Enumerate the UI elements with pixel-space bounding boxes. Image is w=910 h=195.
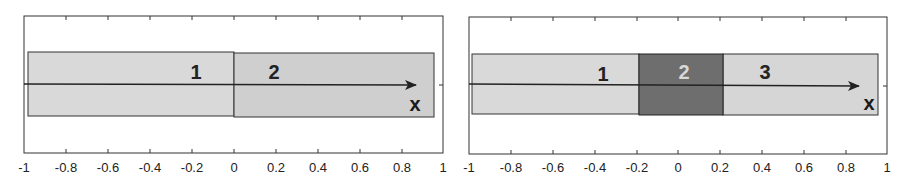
bottom-ticks [511, 150, 846, 154]
tick-label: 0 [674, 160, 681, 175]
region-2-label: 2 [268, 61, 279, 83]
region-3-label: 3 [759, 61, 770, 83]
tick-label: -0.8 [500, 160, 522, 175]
region-2-label: 2 [678, 61, 689, 83]
tick-label: 0 [230, 160, 237, 175]
x-variable-label: x [863, 92, 874, 114]
tick-label: -0.8 [55, 160, 77, 175]
region-1-label: 1 [190, 61, 201, 83]
tick-label: 0.8 [393, 160, 411, 175]
tick-labels: -1 -0.8 -0.6 -0.4 -0.2 0 0.2 0.4 0.6 0.8… [18, 160, 446, 175]
tick-label: -0.2 [626, 160, 648, 175]
tick-label: 1 [439, 160, 446, 175]
tick-label: 0.4 [753, 160, 771, 175]
tick-label: 0.6 [351, 160, 369, 175]
tick-label: 0.8 [837, 160, 855, 175]
tick-label: -1 [18, 160, 30, 175]
tick-label: -0.6 [97, 160, 119, 175]
top-ticks [511, 17, 846, 21]
tick-label: 1 [883, 160, 890, 175]
region-1-label: 1 [597, 63, 608, 85]
diagram-canvas: 1 2 x -1 -0.8 -0.6 -0.4 -0.2 0 0.2 0.4 0… [0, 0, 910, 195]
x-axis-arrow [24, 84, 416, 85]
bottom-ticks [66, 149, 402, 153]
tick-label: -0.2 [181, 160, 203, 175]
tick-label: -0.6 [542, 160, 564, 175]
left-panel: 1 2 x -1 -0.8 -0.6 -0.4 -0.2 0 0.2 0.4 0… [18, 16, 446, 175]
tick-label: 0.2 [711, 160, 729, 175]
tick-label: 0.2 [267, 160, 285, 175]
tick-label: -0.4 [139, 160, 161, 175]
right-panel: 1 2 3 x -1 -0.8 -0.6 -0.4 -0.2 0 0.2 0.4… [463, 17, 890, 175]
top-ticks [66, 16, 402, 20]
tick-label: 0.6 [795, 160, 813, 175]
x-variable-label: x [409, 93, 420, 115]
region-3-box [723, 54, 878, 115]
tick-label: 0.4 [309, 160, 327, 175]
tick-label: -1 [463, 160, 475, 175]
tick-labels: -1 -0.8 -0.6 -0.4 -0.2 0 0.2 0.4 0.6 0.8… [463, 160, 890, 175]
tick-label: -0.4 [584, 160, 606, 175]
